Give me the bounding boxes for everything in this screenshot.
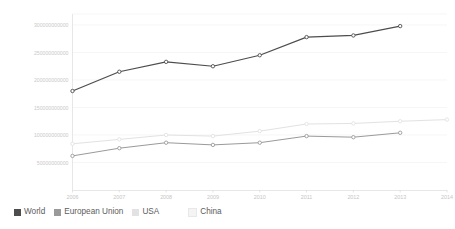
- data-point-marker[interactable]: [164, 141, 167, 144]
- data-point-marker[interactable]: [398, 24, 401, 27]
- line-chart: 5000000000010000000000015000000000020000…: [0, 0, 455, 229]
- x-tick-label: 2012: [347, 194, 359, 200]
- data-point-marker[interactable]: [71, 142, 74, 145]
- data-point-marker[interactable]: [305, 134, 308, 137]
- x-tick-label: 2010: [254, 194, 266, 200]
- y-tick-label: 250000000000: [34, 50, 69, 56]
- chart-legend: World European Union USA China: [14, 205, 231, 219]
- data-point-marker[interactable]: [164, 60, 167, 63]
- y-tick-label: 150000000000: [34, 105, 69, 111]
- legend-item-world[interactable]: World: [14, 207, 45, 217]
- data-point-marker[interactable]: [211, 143, 214, 146]
- y-tick-label: 100000000000: [34, 132, 69, 138]
- series-line-world: [73, 26, 401, 91]
- legend-swatch-china: [188, 208, 197, 217]
- data-point-marker[interactable]: [305, 122, 308, 125]
- data-point-marker[interactable]: [118, 147, 121, 150]
- legend-item-european-union[interactable]: European Union: [54, 207, 123, 217]
- data-point-marker[interactable]: [398, 131, 401, 134]
- y-tick-label: 300000000000: [34, 22, 69, 28]
- legend-swatch-european-union: [54, 209, 61, 216]
- data-point-marker[interactable]: [258, 54, 261, 57]
- x-tick-label: 2008: [160, 194, 172, 200]
- data-point-marker[interactable]: [118, 138, 121, 141]
- data-point-marker[interactable]: [398, 120, 401, 123]
- legend-swatch-world: [14, 209, 21, 216]
- series-line-european-union: [73, 133, 401, 156]
- data-point-marker[interactable]: [118, 70, 121, 73]
- y-axis-tick-labels: 5000000000010000000000015000000000020000…: [34, 22, 69, 166]
- data-point-marker[interactable]: [352, 136, 355, 139]
- chart-plot-area: 5000000000010000000000015000000000020000…: [0, 0, 455, 229]
- gridlines: [73, 14, 448, 163]
- legend-label-china: China: [200, 207, 221, 217]
- x-tick-label: 2014: [441, 194, 453, 200]
- x-tick-label: 2006: [67, 194, 79, 200]
- y-tick-label: 200000000000: [34, 77, 69, 83]
- series-markers: [71, 24, 449, 157]
- legend-item-usa[interactable]: USA: [132, 207, 159, 217]
- data-point-marker[interactable]: [352, 122, 355, 125]
- x-tick-label: 2009: [207, 194, 219, 200]
- x-axis-tick-labels: 200620072008200920102011201220132014: [67, 194, 454, 200]
- x-tick-label: 2007: [113, 194, 125, 200]
- data-point-marker[interactable]: [445, 118, 448, 121]
- data-point-marker[interactable]: [352, 34, 355, 37]
- data-point-marker[interactable]: [71, 89, 74, 92]
- legend-item-china[interactable]: China: [188, 207, 221, 217]
- data-point-marker[interactable]: [305, 35, 308, 38]
- data-point-marker[interactable]: [164, 133, 167, 136]
- legend-label-usa: USA: [142, 207, 159, 217]
- data-point-marker[interactable]: [71, 154, 74, 157]
- data-point-marker[interactable]: [258, 141, 261, 144]
- y-tick-label: 50000000000: [37, 160, 69, 166]
- legend-swatch-usa: [132, 209, 139, 216]
- legend-label-european-union: European Union: [64, 207, 123, 217]
- legend-label-world: World: [24, 207, 45, 217]
- data-point-marker[interactable]: [258, 129, 261, 132]
- x-tick-label: 2011: [301, 194, 313, 200]
- data-point-marker[interactable]: [211, 134, 214, 137]
- series-lines: [73, 26, 448, 156]
- x-tick-label: 2013: [394, 194, 406, 200]
- data-point-marker[interactable]: [211, 65, 214, 68]
